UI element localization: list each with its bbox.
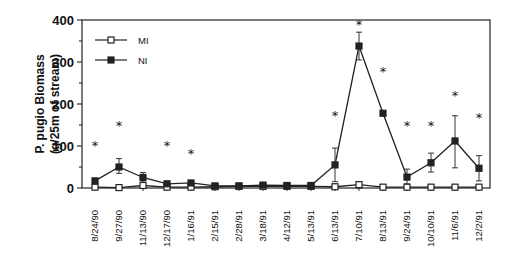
data-point-ni <box>284 182 290 188</box>
data-point-mi <box>476 184 482 190</box>
x-tick-label: 8/24/90 <box>89 210 100 242</box>
data-point-mi <box>116 185 122 191</box>
x-tick-label: 12/2/91 <box>473 210 484 242</box>
legend-mi-marker <box>108 37 114 43</box>
data-point-ni <box>260 182 266 188</box>
y-axis-title-line2: (g/25m of stream) <box>48 54 62 154</box>
data-point-ni <box>116 164 122 170</box>
legend-mi-label: MI <box>138 35 149 46</box>
data-point-ni <box>164 181 170 187</box>
y-axis-title-line1: P. pugio Biomass <box>33 54 47 153</box>
x-tick-label: 6/13/91 <box>329 210 340 242</box>
significance-star: * <box>380 64 387 79</box>
data-point-ni <box>404 174 410 180</box>
legend-ni-label: NI <box>138 55 148 66</box>
significance-star: * <box>116 118 123 133</box>
data-point-ni <box>236 183 242 189</box>
data-point-ni <box>140 175 146 181</box>
data-point-mi <box>92 184 98 190</box>
x-tick-label: 2/28/91 <box>233 210 244 242</box>
data-point-mi <box>356 182 362 188</box>
data-point-ni <box>356 43 362 49</box>
x-axis: 8/24/909/27/9011/13/9012/17/901/16/912/1… <box>89 188 484 247</box>
series-layer <box>92 32 482 190</box>
data-point-mi <box>428 184 434 190</box>
x-tick-label: 10/10/91 <box>425 210 436 247</box>
data-point-ni <box>92 178 98 184</box>
y-axis-title: P. pugio Biomass (g/25m of stream) <box>33 54 62 154</box>
data-point-ni <box>476 165 482 171</box>
significance-stars: *********** <box>92 17 483 161</box>
series-line <box>95 46 479 186</box>
x-tick-label: 1/16/91 <box>185 210 196 242</box>
data-point-mi <box>140 182 146 188</box>
x-tick-label: 7/10/91 <box>353 210 364 242</box>
x-tick-label: 8/13/91 <box>377 210 388 242</box>
data-point-ni <box>212 183 218 189</box>
x-tick-label: 5/13/91 <box>305 210 316 242</box>
data-point-ni <box>380 110 386 116</box>
significance-star: * <box>404 118 411 133</box>
data-point-mi <box>404 184 410 190</box>
significance-star: * <box>476 110 483 125</box>
x-tick-label: 9/27/90 <box>113 210 124 242</box>
x-tick-label: 9/24/91 <box>401 210 412 242</box>
data-point-ni <box>188 180 194 186</box>
x-tick-label: 11/13/90 <box>137 210 148 246</box>
significance-star: * <box>92 138 99 153</box>
data-point-mi <box>332 184 338 190</box>
x-tick-label: 11/6/91 <box>449 210 460 241</box>
significance-star: * <box>452 88 459 103</box>
y-tick-label: 400 <box>52 13 74 28</box>
legend: MI NI <box>95 35 149 66</box>
x-tick-label: 4/12/91 <box>281 210 292 242</box>
data-point-ni <box>308 182 314 188</box>
data-point-ni <box>428 160 434 166</box>
significance-star: * <box>332 108 339 123</box>
x-tick-label: 12/17/90 <box>161 210 172 247</box>
y-tick-label: 0 <box>67 181 74 196</box>
data-point-ni <box>332 162 338 168</box>
biomass-line-chart: 0100200300400 P. pugio Biomass (g/25m of… <box>0 0 515 256</box>
series-ni <box>92 32 482 189</box>
data-point-mi <box>452 184 458 190</box>
data-point-mi <box>380 184 386 190</box>
data-point-ni <box>452 138 458 144</box>
significance-star: * <box>164 138 171 153</box>
legend-ni-marker <box>108 57 114 63</box>
x-tick-label: 3/18/91 <box>257 210 268 242</box>
significance-star: * <box>356 17 363 32</box>
x-tick-label: 2/15/91 <box>209 210 220 242</box>
significance-star: * <box>188 146 195 161</box>
significance-star: * <box>428 118 435 133</box>
